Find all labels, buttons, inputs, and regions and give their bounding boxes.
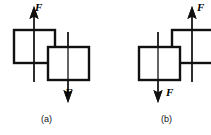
panel-b-caption: (b) (161, 114, 172, 124)
panel-a-caption: (a) (41, 114, 52, 124)
panel-b-lower-left-box (139, 47, 180, 80)
panel-a-force-up-label: F (35, 1, 42, 13)
panel-a (14, 6, 89, 103)
figure-root: F F F F (a) (b) (0, 0, 211, 135)
panel-a-force-down-label: F (65, 86, 72, 98)
panel-b-force-up-label: F (197, 1, 204, 13)
panel-b (139, 6, 211, 103)
panel-b-force-down-label: F (166, 86, 173, 98)
figure-svg (0, 0, 211, 135)
